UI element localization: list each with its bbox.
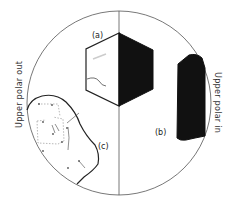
- label-c: (c): [98, 142, 109, 151]
- label-b: (b): [155, 128, 166, 137]
- field-of-view-diagram: (a) (b) (c) Upper polar out Upper polar …: [0, 0, 239, 204]
- label-a: (a): [92, 31, 103, 40]
- side-label-right: Upper polar in: [213, 72, 222, 133]
- side-label-left: Upper polar out: [15, 61, 24, 128]
- grain-b: [177, 54, 205, 140]
